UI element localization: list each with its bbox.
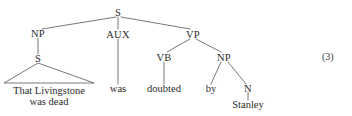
leaf-was-dead: was dead (30, 96, 70, 107)
node-label-np-subject: NP (31, 28, 45, 39)
node-label-np-object: NP (217, 52, 231, 63)
leaf-was: was (110, 83, 126, 94)
branch-s-to-np-subject (42, 17, 116, 29)
leaf-stanley: Stanley (232, 99, 264, 110)
node-label-s-embedded: S (35, 53, 41, 64)
leaf-by: by (206, 83, 217, 94)
node-label-n: N (244, 83, 252, 94)
branch-s-to-vp (121, 17, 190, 29)
clause-triangle (4, 63, 94, 83)
syntax-tree-canvas: S NP AUX VP S VB NP N That Livingstone w… (0, 0, 352, 116)
leaf-that-livingstone: That Livingstone (13, 85, 85, 96)
branch-vp-to-np-object (196, 39, 221, 52)
leaf-doubted: doubted (147, 83, 182, 94)
branch-vp-to-vb (167, 39, 190, 52)
syntax-tree-figure: S NP AUX VP S VB NP N That Livingstone w… (0, 0, 352, 116)
node-label-vp: VP (186, 29, 200, 40)
branch-np-object-to-n (228, 62, 246, 84)
node-label-s-root: S (115, 7, 121, 18)
equation-number: (3) (322, 51, 334, 62)
branch-np-object-to-by (211, 62, 221, 84)
node-label-vb: VB (156, 52, 171, 63)
node-label-aux: AUX (106, 29, 130, 40)
